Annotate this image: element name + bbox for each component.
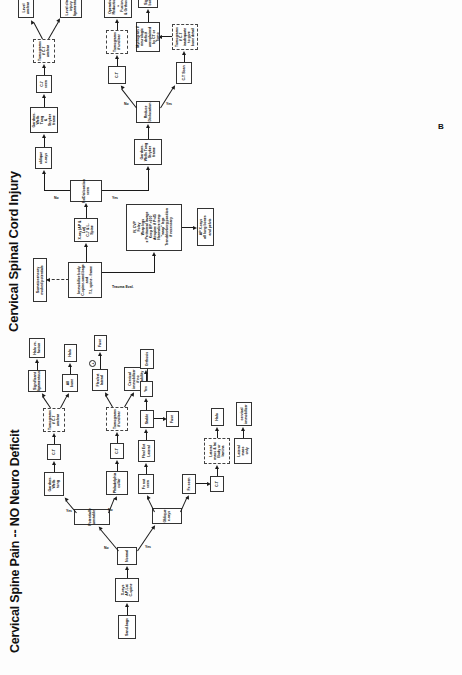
- arrow-right-tomo-unclear1: [115, 55, 119, 59]
- node-fx-seen: Fx seen: [182, 474, 196, 494]
- arrow-right-halo-a: [68, 363, 72, 367]
- arrow-right-tomo-c7-bone: [182, 51, 186, 55]
- arrow-right-fuse-a: [98, 352, 102, 356]
- line-fxnotseen-to-flexext2: [146, 466, 147, 474]
- line-flexext-to-fuse: [100, 355, 101, 369]
- node-fx-not-seen: Fx not seen: [138, 474, 154, 494]
- line-yes-to-orthosis: [146, 373, 147, 381]
- line-immobilize-to-xray: [86, 246, 87, 262]
- arrow-right-tomo-a: [52, 433, 56, 437]
- panel-cervical-spinal-cord-injury: Cervical Spinal Cord Injury Somatosensor…: [0, 0, 231, 338]
- node-fuse-a: Fuse: [94, 335, 107, 351]
- label-no-2: No: [124, 102, 129, 106]
- arrow-right-operative: [115, 19, 119, 23]
- node-tomograms-c7-bone-detail: Tomograms if C-7 inadequate to give bone…: [172, 24, 198, 50]
- line-allbone-to-halo-a: [70, 366, 71, 374]
- arrow-right-sigligament: [40, 392, 46, 398]
- dashed-connector-sep: [47, 279, 69, 280]
- line-latmass-to-halo-c: [217, 430, 218, 438]
- node-gardner-wells-tong-stryker-1: Gardner-Wells Tong & Stryker frame: [30, 107, 58, 133]
- line-phil-to-ct-b: [117, 463, 118, 471]
- arrow-right-cerv-immob-c: [241, 427, 245, 431]
- node-level-unclear: Level unclear: [18, 0, 34, 18]
- node-gardner-wells-tong-stryker-2: Gardner-Wells Tong Stryker frame: [134, 139, 162, 165]
- line-sig-to-halofusion-a: [37, 362, 38, 370]
- node-ct-b: C-T: [110, 443, 124, 459]
- arrow-right-gwt2: [146, 166, 150, 170]
- node-c7-seen: C-7 seen: [36, 75, 52, 93]
- node-tomograms-if-c7-unclear-a: Tomograms if C-7 unclear: [43, 408, 65, 432]
- line-ct-c-to-latmass: [217, 468, 218, 476]
- node-level-clear-injury-ligamentous: Level clear, injury ligamentous: [60, 0, 82, 18]
- arrow-right-halo-c: [215, 427, 219, 431]
- line-flexext2-to-stable: [146, 432, 147, 440]
- node-reduce-dislocation: Reduce Dislocation: [136, 101, 160, 123]
- arrow-right-trauma-eval: [152, 252, 156, 256]
- node-trauma-eval-orders: IV, CVP Foley Wrap legs ± Peritoneal lav…: [126, 204, 182, 251]
- arrow-right-halo-fusion-a: [35, 359, 39, 363]
- node-tomograms-if-unclear-1: Tomograms if unclear: [106, 30, 128, 54]
- arrow-right-ct1: [119, 84, 125, 90]
- line-yes-branch-v: [102, 190, 148, 191]
- diag-tomo-b-flexext: [105, 395, 113, 408]
- panel-b-title: Cervical Spinal Cord Injury: [6, 171, 21, 332]
- line-ct-a-to-tomo-a: [54, 436, 55, 444]
- diag-tomo-a-sig: [42, 396, 51, 408]
- label-trauma-eval: Trauma Eval.: [112, 285, 134, 289]
- node-sand-bags: Sand-bags: [118, 615, 136, 639]
- diag-tomo-to-levelunclear: [34, 23, 43, 39]
- label-yes-2: Yes: [166, 102, 172, 106]
- node-fuse-2: Fuse: [166, 411, 179, 427]
- panel-a-title: Cervical Spine Pain -- NO Neuro Deficit: [8, 429, 22, 653]
- line-gwt2-to-reduce: [148, 127, 149, 139]
- arrow-right-gwt1: [42, 134, 46, 138]
- line-xray-to-fxdisloc: [86, 206, 87, 218]
- diag-tomo-b-cerv: [124, 395, 132, 408]
- node-gardner-wells-tong-a: Gardner-Wells tong: [44, 472, 64, 496]
- node-ct-a: C-T: [47, 444, 61, 460]
- arrow-right-tomo-b: [115, 432, 119, 436]
- node-oblique-xrays-a: Oblique x-rays: [152, 508, 182, 524]
- arrow-right-xrays: [125, 603, 129, 607]
- node-lateral-mass-only: Lateral mass only: [234, 438, 252, 464]
- line-oblique-to-gwt1: [44, 137, 45, 147]
- arrow-right-xray1: [84, 243, 88, 247]
- node-halo-vs-fusion-a: Halo vs. fusion: [29, 338, 45, 358]
- line-stable-to-yes: [146, 401, 147, 410]
- label-a-yes-1: Yes: [66, 509, 72, 513]
- node-tomograms-if-unclear-b: Tomograms if unclear: [106, 407, 128, 431]
- node-ct-scan: C-T Scan: [176, 62, 192, 84]
- line-xrays-to-normal: [127, 569, 128, 578]
- line-yes-branch-h: [148, 169, 149, 191]
- arrow-right-stable: [144, 429, 148, 433]
- node-ct-1: C-T: [108, 66, 126, 84]
- node-immobilize-body: Immobilize body C-spine-sand-bags and T-…: [68, 262, 102, 298]
- node-halo-a: Halo: [64, 344, 77, 362]
- node-halo-c: Halo: [211, 408, 224, 426]
- line-ct1-to-tomo1: [117, 58, 118, 66]
- line-trauma-eval-v: [102, 272, 154, 273]
- diag-oblique-fxnotseen: [147, 497, 155, 512]
- arrow-right-ct-b: [115, 460, 119, 464]
- arrow-right-philadelphia: [113, 495, 118, 500]
- diag-tomo-a-allbone: [60, 395, 67, 408]
- arrow-right-gwt-a: [63, 496, 69, 502]
- diag-oblique-fxseen: [180, 497, 187, 512]
- badge-a-plus: +: [89, 360, 96, 367]
- arrow-right-flexext-lateral2: [144, 463, 148, 467]
- node-yes-b: Yes: [140, 381, 153, 397]
- arrow-up-sep: [46, 278, 50, 282]
- node-cervical-immobilizer-c: cervical immobilizer: [236, 402, 252, 426]
- node-somatosensory-evoked-potentials: Somatosensory evoked potentials: [33, 258, 47, 302]
- label-a-yes-2: Yes: [145, 545, 151, 549]
- node-xray-ap-lat: X-ray (AP & Lat) C-7 & L-Spine: [74, 218, 98, 242]
- arrow-right-yes-b: [144, 398, 148, 402]
- line-gwt-to-ct-a: [54, 464, 55, 472]
- node-potentially-unstable: Potentially unstable: [74, 509, 110, 525]
- node-all-bone: All bone: [62, 374, 78, 392]
- node-flex-ext-lateral: Flex/ext lateral: [92, 369, 108, 391]
- panel-cervical-spine-pain: Cervical Spine Pain -- NO Neuro Deficit …: [0, 338, 231, 675]
- line-no-branch-h: [44, 173, 45, 191]
- arrow-right-lat-mass-body: [215, 465, 219, 469]
- arrow-right-tomo-c7: [42, 64, 46, 68]
